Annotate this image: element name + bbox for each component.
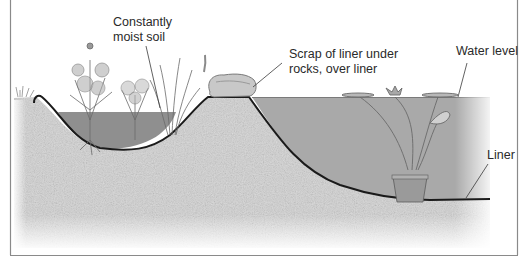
label-constantly-moist-soil: Constantly moist soil (113, 15, 172, 45)
rock-icon (209, 74, 256, 97)
label-line: moist soil (113, 30, 172, 45)
pond-illustration (0, 0, 532, 269)
label-liner: Liner (487, 148, 515, 163)
plant-pot-icon (392, 175, 428, 202)
label-line: Scrap of liner under (289, 47, 398, 62)
grass-icon (16, 86, 34, 97)
label-water-level: Water level (456, 44, 518, 59)
diagram-frame: Constantly moist soil Scrap of liner und… (0, 0, 532, 269)
label-line: rocks, over liner (289, 62, 398, 77)
label-line: Constantly (113, 15, 172, 30)
label-scrap-of-liner: Scrap of liner under rocks, over liner (289, 47, 398, 77)
